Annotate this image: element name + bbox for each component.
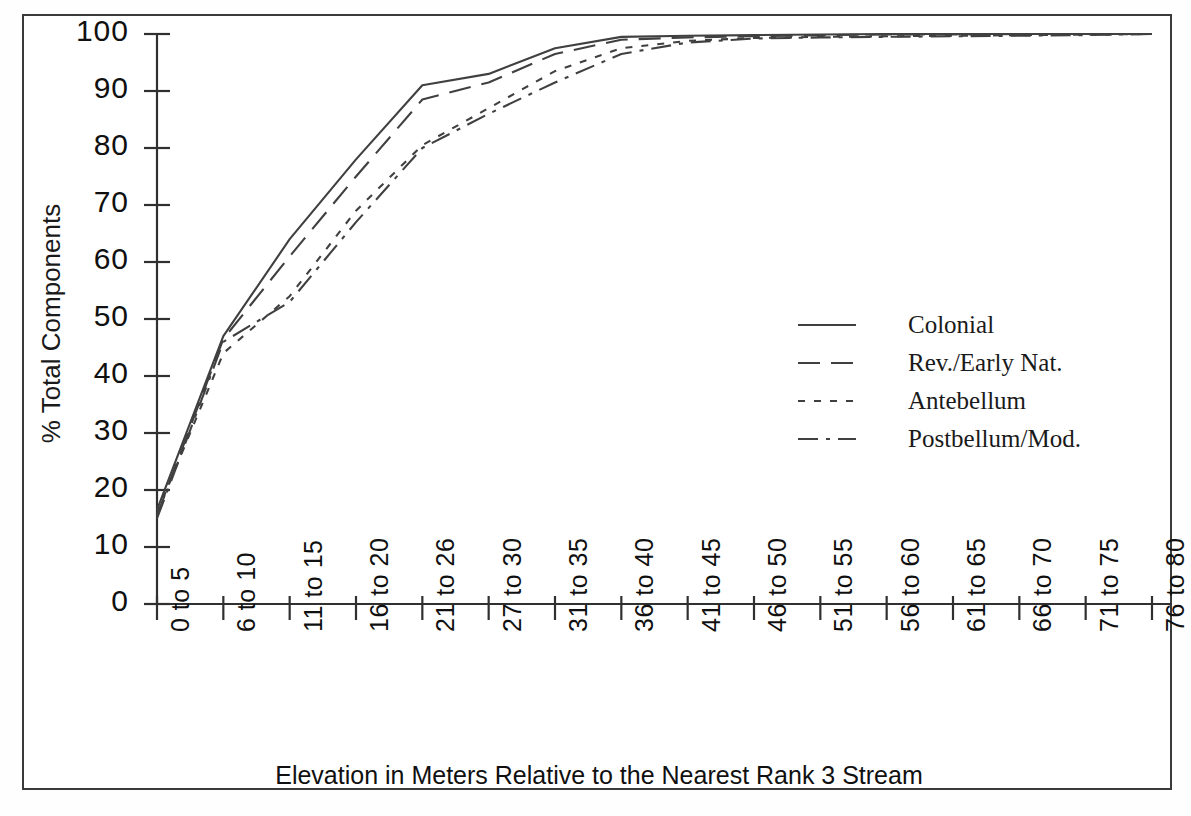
legend-item: Antebellum <box>794 382 1081 420</box>
x-tick-label: 41 to 45 <box>697 538 726 632</box>
legend-line-swatch-icon <box>794 429 874 449</box>
legend-item: Postbellum/Mod. <box>794 420 1081 458</box>
y-tick-label: 60 <box>49 242 129 276</box>
y-tick-label: 80 <box>49 128 129 162</box>
x-tick-label: 51 to 55 <box>829 538 858 632</box>
x-axis-title: Elevation in Meters Relative to the Near… <box>24 761 1174 790</box>
y-tick-label: 30 <box>49 413 129 447</box>
y-tick-label: 40 <box>49 356 129 390</box>
x-tick-label: 61 to 65 <box>962 538 991 632</box>
x-tick-label: 71 to 75 <box>1095 538 1124 632</box>
y-tick-label: 50 <box>49 299 129 333</box>
legend-line-swatch-icon <box>794 391 874 411</box>
x-tick-label: 16 to 20 <box>365 538 394 632</box>
x-tick-label: 31 to 35 <box>564 538 593 632</box>
chart-legend: ColonialRev./Early Nat.AntebellumPostbel… <box>794 306 1081 458</box>
y-tick-label: 70 <box>49 185 129 219</box>
x-tick-label: 66 to 70 <box>1028 538 1057 632</box>
x-tick-label: 76 to 80 <box>1161 538 1190 632</box>
legend-label: Antebellum <box>874 387 1026 415</box>
x-tick-label: 11 to 15 <box>299 539 328 632</box>
x-tick-label: 27 to 30 <box>498 538 527 632</box>
y-tick-label: 90 <box>49 71 129 105</box>
legend-line-swatch-icon <box>794 315 874 335</box>
legend-label: Colonial <box>874 311 994 339</box>
x-tick-label: 56 to 60 <box>896 538 925 632</box>
legend-item: Colonial <box>794 306 1081 344</box>
y-tick-label: 0 <box>49 584 129 618</box>
legend-label: Rev./Early Nat. <box>874 349 1063 377</box>
legend-item: Rev./Early Nat. <box>794 344 1081 382</box>
y-tick-label: 10 <box>49 527 129 561</box>
y-tick-label: 20 <box>49 470 129 504</box>
x-tick-label: 21 to 26 <box>431 538 460 632</box>
x-tick-label: 36 to 40 <box>630 538 659 632</box>
chart-figure: % Total Components 010203040506070809010… <box>0 0 1191 816</box>
chart-frame: % Total Components 010203040506070809010… <box>22 14 1172 790</box>
x-tick-label: 46 to 50 <box>763 538 792 632</box>
legend-line-swatch-icon <box>794 353 874 373</box>
x-tick-label: 6 to 10 <box>232 552 261 632</box>
legend-label: Postbellum/Mod. <box>874 425 1081 453</box>
y-tick-label: 100 <box>49 14 129 48</box>
x-tick-label: 0 to 5 <box>166 566 195 632</box>
